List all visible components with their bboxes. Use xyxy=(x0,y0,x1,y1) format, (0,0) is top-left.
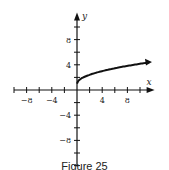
svg-text:8: 8 xyxy=(66,36,71,45)
svg-text:−4: −4 xyxy=(46,96,58,105)
y-axis-label: y xyxy=(81,11,88,21)
curve-arrowhead-icon xyxy=(145,59,152,66)
svg-text:−8: −8 xyxy=(21,96,33,105)
axes xyxy=(14,12,155,166)
coordinate-plot: −8−44884−4−8 x y xyxy=(0,0,169,170)
x-axis-arrow-icon xyxy=(147,87,155,93)
function-curve xyxy=(77,63,148,84)
svg-text:4: 4 xyxy=(66,61,71,70)
svg-text:8: 8 xyxy=(125,96,130,105)
svg-text:−8: −8 xyxy=(59,136,71,145)
figure-caption: Figure 25 xyxy=(0,160,169,170)
x-axis-label: x xyxy=(147,77,152,87)
svg-text:4: 4 xyxy=(100,96,105,105)
svg-text:−4: −4 xyxy=(59,111,71,120)
y-axis-arrow-icon xyxy=(74,12,80,20)
